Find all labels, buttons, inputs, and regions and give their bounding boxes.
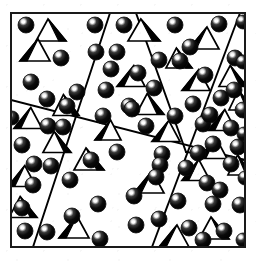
sphere-highlight bbox=[134, 69, 138, 72]
sphere-highlight bbox=[59, 123, 63, 126]
sphere-body bbox=[83, 152, 99, 168]
sphere-body bbox=[126, 188, 142, 204]
sphere-highlight bbox=[120, 21, 124, 24]
sphere-particle bbox=[212, 182, 228, 198]
sphere-highlight bbox=[96, 235, 100, 238]
sphere-body bbox=[53, 50, 69, 66]
sphere-highlight bbox=[92, 48, 96, 51]
sphere-highlight bbox=[155, 56, 159, 59]
sphere-highlight bbox=[73, 88, 77, 91]
sphere-particle bbox=[69, 84, 85, 100]
sphere-particle bbox=[90, 196, 106, 212]
sphere-body bbox=[109, 44, 125, 60]
sphere-highlight bbox=[21, 227, 25, 230]
sphere-particle bbox=[223, 156, 239, 172]
sphere-body bbox=[124, 101, 140, 117]
sphere-highlight bbox=[239, 18, 242, 21]
sphere-highlight bbox=[220, 227, 224, 230]
sphere-particle bbox=[109, 144, 125, 160]
sphere-particle bbox=[109, 44, 125, 60]
sphere-body bbox=[17, 223, 33, 239]
sphere-particle bbox=[205, 136, 221, 152]
sphere-body bbox=[167, 108, 183, 124]
sphere-body bbox=[205, 136, 221, 152]
sphere-body bbox=[223, 156, 239, 172]
sphere-particle bbox=[190, 145, 206, 161]
sphere-particle bbox=[197, 67, 213, 83]
sphere-highlight bbox=[113, 148, 117, 151]
figure-canvas: Two-phase polycrystalline microstructure… bbox=[0, 0, 256, 265]
sphere-highlight bbox=[107, 65, 111, 68]
sphere-highlight bbox=[130, 192, 134, 195]
sphere-body bbox=[151, 52, 167, 68]
sphere-highlight bbox=[68, 212, 72, 215]
sphere-highlight bbox=[66, 176, 70, 179]
sphere-particle bbox=[39, 224, 55, 240]
sphere-highlight bbox=[209, 140, 213, 143]
sphere-particle bbox=[128, 217, 144, 233]
sphere-body bbox=[151, 211, 167, 227]
sphere-body bbox=[216, 223, 232, 239]
sphere-highlight bbox=[174, 197, 178, 200]
sphere-body bbox=[148, 169, 164, 185]
sphere-body bbox=[213, 90, 229, 106]
sphere-particle bbox=[92, 231, 108, 247]
sphere-highlight bbox=[22, 21, 26, 24]
sphere-body bbox=[223, 120, 239, 136]
sphere-body bbox=[109, 144, 125, 160]
sphere-particle bbox=[195, 232, 211, 248]
sphere-particle bbox=[23, 74, 39, 90]
sphere-body bbox=[197, 67, 213, 83]
sphere-particle bbox=[43, 158, 59, 174]
sphere-particle bbox=[213, 90, 229, 106]
sphere-body bbox=[43, 158, 59, 174]
sphere-highlight bbox=[155, 215, 159, 218]
sphere-highlight bbox=[43, 228, 47, 231]
sphere-particle bbox=[64, 208, 80, 224]
sphere-highlight bbox=[206, 111, 210, 114]
sphere-particle bbox=[17, 223, 33, 239]
sphere-particle bbox=[95, 108, 111, 124]
sphere-highlight bbox=[142, 122, 146, 125]
sphere-particle bbox=[146, 80, 162, 96]
microstructure-diagram: Two-phase polycrystalline microstructure… bbox=[0, 0, 256, 265]
sphere-particle bbox=[230, 139, 246, 155]
sphere-body bbox=[230, 139, 246, 155]
sphere-body bbox=[182, 39, 198, 55]
sphere-highlight bbox=[132, 221, 136, 224]
sphere-body bbox=[14, 200, 30, 216]
sphere-body bbox=[205, 196, 221, 212]
sphere-body bbox=[172, 53, 188, 69]
sphere-particle bbox=[124, 101, 140, 117]
sphere-body bbox=[95, 108, 111, 124]
sphere-highlight bbox=[239, 58, 242, 61]
sphere-highlight bbox=[156, 161, 160, 164]
sphere-body bbox=[116, 17, 132, 33]
sphere-particle bbox=[148, 169, 164, 185]
sphere-particle bbox=[98, 82, 114, 98]
sphere-body bbox=[26, 156, 42, 172]
sphere-highlight bbox=[44, 122, 48, 125]
sphere-particle bbox=[185, 96, 201, 112]
sphere-highlight bbox=[158, 150, 162, 153]
sphere-highlight bbox=[176, 57, 180, 60]
sphere-body bbox=[87, 17, 103, 33]
sphere-highlight bbox=[171, 112, 175, 115]
sphere-particle bbox=[88, 44, 104, 60]
sphere-particle bbox=[130, 65, 146, 81]
sphere-highlight bbox=[217, 94, 221, 97]
sphere-body bbox=[170, 193, 186, 209]
sphere-body bbox=[40, 118, 56, 134]
sphere-body bbox=[138, 118, 154, 134]
sphere-particle bbox=[151, 52, 167, 68]
sphere-particle bbox=[138, 118, 154, 134]
sphere-body bbox=[39, 224, 55, 240]
sphere-particle bbox=[223, 120, 239, 136]
sphere-highlight bbox=[189, 100, 193, 103]
sphere-body bbox=[181, 220, 197, 236]
sphere-particle bbox=[62, 172, 78, 188]
sphere-highlight bbox=[102, 86, 106, 89]
sphere-particle bbox=[126, 188, 142, 204]
sphere-highlight bbox=[199, 120, 203, 123]
sphere-body bbox=[103, 61, 119, 77]
